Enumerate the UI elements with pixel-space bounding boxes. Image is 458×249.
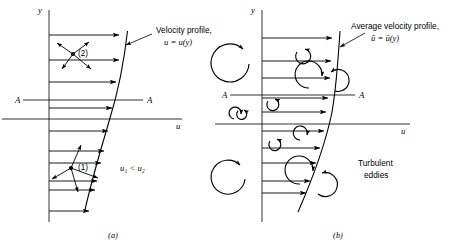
panel-a-u-axis-label: u (176, 121, 181, 131)
molecular-motion-arrow (71, 168, 78, 192)
panel-a-caption: (a) (108, 231, 118, 240)
panel-b: y u A A (211, 5, 439, 240)
panel-b-profile-label-line2: ū = ū(y) (371, 33, 399, 43)
eddy-large (211, 44, 249, 82)
panel-a-velocity-profile-curve (85, 31, 128, 210)
eddy-arc (318, 173, 337, 197)
panel-b-section-label-left: A (221, 90, 228, 100)
molecular-motion-arrow (52, 168, 71, 179)
panel-b-caption: (b) (333, 231, 343, 240)
panel-b-profile-leader (340, 33, 365, 47)
panel-a-section-label-right: A (146, 95, 153, 105)
eddy-medium (285, 156, 313, 184)
panel-a: y u A A (2) (2, 5, 212, 240)
eddy-small (293, 126, 307, 140)
eddy-large (211, 160, 245, 194)
figure-container: y u A A (2) (0, 0, 458, 249)
panel-a-section-label-left: A (14, 95, 21, 105)
panel-a-point-2-group: (2) (57, 42, 91, 69)
panel-a-profile-leader (126, 34, 152, 45)
fluid-flow-figure: y u A A (2) (0, 0, 458, 249)
panel-b-turbulent-eddies (211, 44, 349, 197)
panel-b-eddies-label-line1: Turbulent (358, 158, 393, 168)
panel-b-average-velocity-profile-curve (298, 31, 340, 212)
panel-a-point-2-label: (2) (78, 49, 88, 58)
molecular-motion-arrow (62, 54, 73, 69)
molecular-motion-arrow (57, 43, 73, 54)
eddy-arc (331, 69, 349, 91)
eddy-tiny (269, 139, 281, 151)
panel-b-profile-label-line1: Average velocity profile, (351, 21, 439, 31)
eddy-tiny (229, 107, 241, 119)
eddy-tiny (267, 99, 279, 111)
eddy-medium (295, 61, 322, 88)
panel-b-y-axis-label: y (250, 5, 255, 15)
panel-b-u-axis-label: u (401, 126, 406, 136)
panel-a-y-axis-label: y (37, 5, 42, 15)
eddy-tiny (237, 110, 247, 119)
panel-a-inequality-label: u₁ < u₂ (120, 163, 145, 173)
panel-b-section-label-right: A (358, 90, 365, 100)
panel-a-profile-label-line2: u = u(y) (164, 37, 192, 47)
panel-a-point-1-label: (1) (78, 163, 88, 172)
panel-a-profile-label-line1: Velocity profile, (156, 25, 212, 35)
panel-b-eddies-label-line2: eddies (364, 170, 388, 180)
